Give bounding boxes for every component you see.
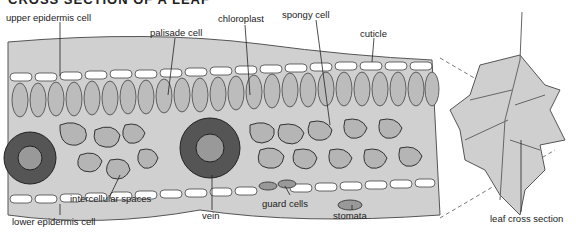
label-guard-cells: guard cells (262, 198, 308, 209)
label-upper-epidermis: upper epidermis cell (6, 12, 91, 23)
label-spongy: spongy cell (282, 9, 330, 20)
label-palisade: palisade cell (150, 27, 202, 38)
label-vein: vein (202, 210, 219, 221)
label-cuticle: cuticle (360, 28, 387, 39)
label-leaf-cross-section: leaf cross section (490, 213, 563, 224)
leaf-shape (450, 55, 565, 215)
label-lower-epidermis: lower epidermis cell (12, 216, 95, 227)
label-intercellular: intercellular spaces (70, 193, 151, 204)
label-stomata: stomata (333, 210, 367, 221)
label-chloroplast: chloroplast (218, 13, 264, 24)
